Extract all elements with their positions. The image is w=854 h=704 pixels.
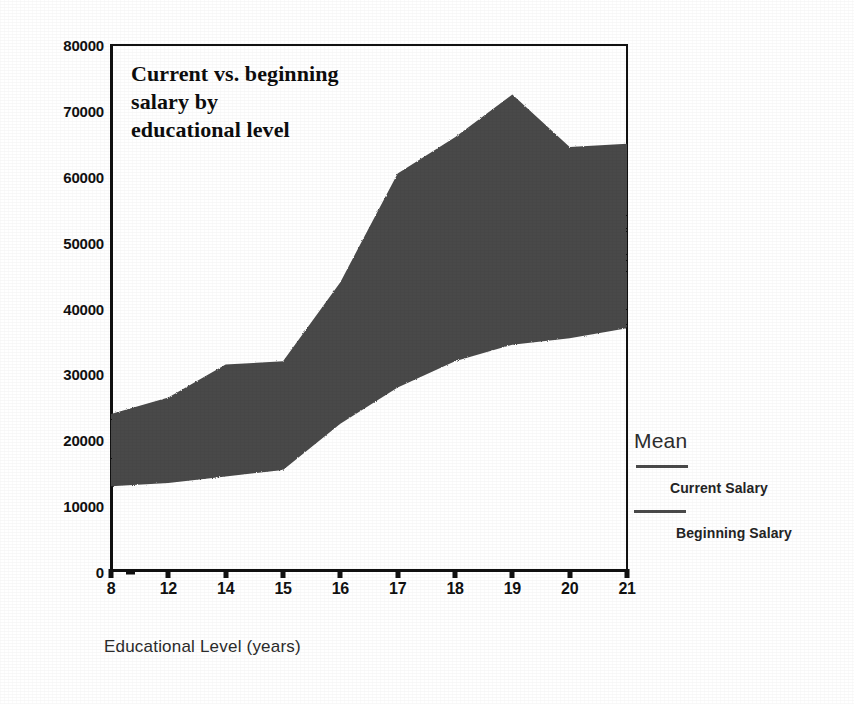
x-tick-mark xyxy=(338,569,343,578)
chart-title: Current vs. beginning salary by educatio… xyxy=(131,60,431,144)
x-tick-mark xyxy=(166,569,171,578)
salary-band-area xyxy=(111,94,627,486)
x-tick-mark xyxy=(625,569,630,578)
chart-title-line-3: educational level xyxy=(131,116,431,144)
chart-title-line-2: salary by xyxy=(131,88,431,116)
legend: Mean Current Salary Beginning Salary xyxy=(634,430,849,541)
y-tick-label: 80000 xyxy=(20,37,104,54)
y-axis: 0100002000030000400005000060000700008000… xyxy=(20,30,104,590)
x-tick-label: 21 xyxy=(603,580,651,598)
x-tick-mark xyxy=(395,569,400,578)
x-tick-label: 15 xyxy=(259,580,307,598)
x-tick-mark xyxy=(453,569,458,578)
x-tick-label: 12 xyxy=(144,580,192,598)
legend-label-beginning-salary: Beginning Salary xyxy=(676,525,849,541)
legend-label-current-salary: Current Salary xyxy=(670,480,849,496)
legend-swatch-beginning-salary xyxy=(634,510,686,513)
x-tick-label: 17 xyxy=(374,580,422,598)
x-tick-label: 14 xyxy=(202,580,250,598)
y-tick-label: 10000 xyxy=(20,498,104,515)
y-tick-label: 50000 xyxy=(20,234,104,251)
chart-title-line-1: Current vs. beginning xyxy=(131,60,431,88)
x-tick-label: 8 xyxy=(87,580,135,598)
x-tick-mark xyxy=(223,569,228,578)
x-tick-label: 16 xyxy=(316,580,364,598)
x-tick-mark xyxy=(109,569,114,578)
x-tick-mark xyxy=(281,569,286,578)
legend-title: Mean xyxy=(634,430,849,451)
x-tick-mark xyxy=(510,569,515,578)
y-tick-label: 60000 xyxy=(20,168,104,185)
y-tick-label: 40000 xyxy=(20,300,104,317)
legend-item-current-salary[interactable]: Current Salary xyxy=(634,465,849,496)
x-tick-mark xyxy=(567,569,572,578)
y-tick-label: 30000 xyxy=(20,366,104,383)
legend-swatch-current-salary xyxy=(636,465,688,468)
x-axis-title: Educational Level (years) xyxy=(104,637,301,657)
y-tick-label: 20000 xyxy=(20,432,104,449)
legend-item-beginning-salary[interactable]: Beginning Salary xyxy=(634,510,849,541)
x-tick-label: 20 xyxy=(546,580,594,598)
chart-figure: 0100002000030000400005000060000700008000… xyxy=(0,0,854,704)
x-tick-label: 19 xyxy=(488,580,536,598)
x-tick-label: 18 xyxy=(431,580,479,598)
y-tick-label: 0 xyxy=(20,564,104,581)
y-tick-label: 70000 xyxy=(20,102,104,119)
